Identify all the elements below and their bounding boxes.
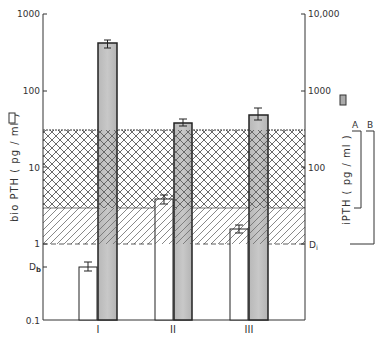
right-axis <box>301 14 305 320</box>
bar-biopth-i <box>79 267 97 320</box>
di-label: Di <box>309 240 318 252</box>
category-labels: I II III <box>97 324 254 335</box>
bracket-b: B <box>350 120 374 244</box>
right-axis-title: iPTH ( pg / ml ) <box>341 134 352 225</box>
legend-white-box-icon <box>9 113 15 123</box>
left-tick: 1000 <box>17 9 40 19</box>
svg-text:B: B <box>367 120 373 130</box>
legend-gray-box-icon <box>340 95 346 105</box>
svg-text:A: A <box>352 120 359 130</box>
right-tick: 1000 <box>308 86 331 96</box>
category-label-i: I <box>97 324 100 335</box>
left-tick: 100 <box>23 86 40 96</box>
right-tick-labels: 10,000 1000 100 <box>308 9 340 173</box>
category-label-iii: III <box>245 324 254 335</box>
category-label-ii: II <box>170 324 176 335</box>
left-tick: 1 <box>34 239 40 249</box>
left-axis <box>43 14 47 320</box>
left-axis-title: bio PTH ( pg / ml ) <box>9 113 20 222</box>
right-tick: 10,000 <box>308 9 340 19</box>
chart-svg: 1000 100 10 1 0.1 Db 10,000 1000 100 Di … <box>0 0 383 341</box>
db-label: Db <box>29 262 41 274</box>
left-tick: 10 <box>29 163 41 173</box>
chart-container: 1000 100 10 1 0.1 Db 10,000 1000 100 Di … <box>0 0 383 341</box>
right-tick: 100 <box>308 163 325 173</box>
bracket-a: A <box>352 120 361 208</box>
left-tick: 0.1 <box>26 316 40 326</box>
left-tick-labels: 1000 100 10 1 0.1 <box>17 9 40 326</box>
